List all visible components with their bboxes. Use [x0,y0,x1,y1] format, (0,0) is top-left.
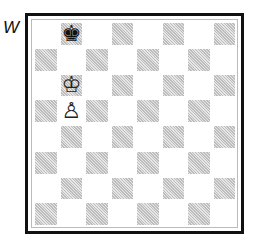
square-f1[interactable] [161,201,187,227]
square-a4[interactable] [33,124,59,150]
square-g6[interactable] [186,73,212,99]
square-c7[interactable] [86,49,108,71]
square-f7[interactable] [161,47,187,73]
square-c4[interactable] [84,124,110,150]
square-d3[interactable] [110,150,136,176]
square-h7[interactable] [212,47,238,73]
square-f8[interactable] [163,23,185,45]
square-b5[interactable]: ♙ [59,98,85,124]
chessboard-frame: ♚♔♙ [25,13,244,234]
chessboard-inner-border: ♚♔♙ [31,19,238,228]
square-d6[interactable] [112,75,134,97]
square-h4[interactable] [214,126,236,148]
white-pawn-icon[interactable]: ♙ [61,100,81,122]
square-d4[interactable] [112,126,134,148]
square-a1[interactable] [35,203,57,225]
black-king-icon[interactable]: ♚ [61,23,81,45]
square-h1[interactable] [212,201,238,227]
square-b7[interactable] [59,47,85,73]
square-e4[interactable] [135,124,161,150]
square-g7[interactable] [188,49,210,71]
square-g1[interactable] [188,203,210,225]
square-d7[interactable] [110,47,136,73]
square-c5[interactable] [86,100,108,122]
square-e6[interactable] [135,73,161,99]
square-f2[interactable] [163,178,185,200]
square-d8[interactable] [112,23,134,45]
square-a2[interactable] [33,176,59,202]
square-b8[interactable]: ♚ [61,23,83,45]
square-b6[interactable]: ♔ [61,75,83,97]
square-g5[interactable] [188,100,210,122]
square-e2[interactable] [135,176,161,202]
square-a5[interactable] [35,100,57,122]
square-a7[interactable] [35,49,57,71]
square-e3[interactable] [137,152,159,174]
square-b1[interactable] [59,201,85,227]
square-f5[interactable] [161,98,187,124]
square-f4[interactable] [163,126,185,148]
square-a8[interactable] [33,21,59,47]
square-d1[interactable] [110,201,136,227]
square-e7[interactable] [137,49,159,71]
square-h2[interactable] [214,178,236,200]
chessboard: ♚♔♙ [33,21,237,227]
square-g2[interactable] [186,176,212,202]
square-d2[interactable] [112,178,134,200]
square-g4[interactable] [186,124,212,150]
square-g3[interactable] [188,152,210,174]
square-a6[interactable] [33,73,59,99]
square-h8[interactable] [214,23,236,45]
square-g8[interactable] [186,21,212,47]
square-e1[interactable] [137,203,159,225]
square-c8[interactable] [84,21,110,47]
square-b2[interactable] [61,178,83,200]
square-f3[interactable] [161,150,187,176]
white-king-icon[interactable]: ♔ [61,74,81,96]
square-c6[interactable] [84,73,110,99]
square-c2[interactable] [84,176,110,202]
square-e8[interactable] [135,21,161,47]
square-b4[interactable] [61,126,83,148]
square-c1[interactable] [86,203,108,225]
square-h5[interactable] [212,98,238,124]
square-h3[interactable] [212,150,238,176]
square-e5[interactable] [137,100,159,122]
square-f6[interactable] [163,75,185,97]
square-b3[interactable] [59,150,85,176]
square-h6[interactable] [214,75,236,97]
square-d5[interactable] [110,98,136,124]
square-a3[interactable] [35,152,57,174]
side-to-move-label: W [3,18,19,38]
square-c3[interactable] [86,152,108,174]
